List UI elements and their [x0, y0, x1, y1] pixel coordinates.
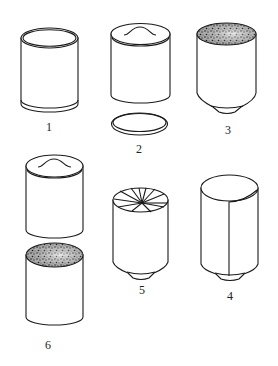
- cylinder-6-lower: [26, 243, 83, 325]
- label-3: 3: [225, 123, 231, 137]
- cylinder-5: [113, 188, 168, 280]
- label-5: 5: [139, 283, 145, 297]
- cylinder-4: [201, 175, 258, 281]
- cylinder-1: [21, 28, 78, 112]
- cylinder-2: [111, 24, 170, 104]
- label-1: 1: [46, 120, 52, 134]
- diagram-canvas: 1 2 3 4 5 6: [0, 0, 278, 366]
- cylinder-3: [197, 23, 256, 114]
- label-2: 2: [136, 142, 142, 156]
- label-4: 4: [227, 289, 233, 303]
- label-6: 6: [45, 338, 51, 352]
- lid-2: [112, 113, 168, 135]
- cylinder-6-upper: [26, 155, 83, 238]
